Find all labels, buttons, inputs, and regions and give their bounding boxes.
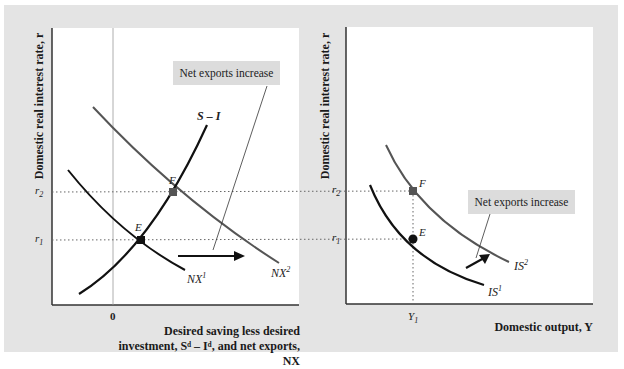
point-e-right-label: E [419,226,426,238]
point-e-right [409,235,418,244]
is1-label: IS1 [488,284,502,300]
left-x-axis-label: Desired saving less desired investment, … [100,324,300,369]
left-callout-leader [213,86,267,250]
s-minus-i-curve [79,125,207,294]
right-shift-arrow [466,258,484,268]
point-f-left-label: F [169,174,176,186]
point-f-left [169,188,177,196]
left-shift-arrowhead [234,251,245,261]
point-f-right [409,187,417,195]
right-r2-tick: r2 [332,183,340,198]
is1-curve [370,185,484,285]
zero-tick: 0 [110,310,116,322]
r1-guide [52,239,413,240]
left-callout: Net exports increase [173,61,280,85]
point-e-left [137,236,145,244]
point-f-right-label: F [419,177,426,189]
right-callout: Net exports increase [468,190,575,214]
nx2-label: NX2 [271,265,290,281]
left-r2-tick: r2 [35,184,43,199]
y1-tick: Y1 [408,310,418,325]
nx1-label: NX1 [187,271,206,287]
s-minus-i-label: S – I [197,109,220,124]
point-e-left-label: E [135,221,142,233]
left-r1-tick: r1 [35,232,43,247]
right-x-axis-label: Domestic output, Y [460,320,593,335]
right-r1-tick: r1 [332,231,340,246]
is2-label: IS2 [514,258,528,274]
